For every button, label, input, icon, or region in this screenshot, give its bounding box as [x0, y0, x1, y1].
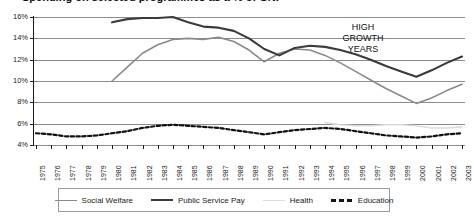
x-axis-label: 1988: [237, 165, 244, 181]
y-axis-tick: [30, 81, 34, 82]
x-axis-label: 1982: [146, 165, 153, 181]
legend-item-public-service-pay[interactable]: Public Service Pay: [151, 196, 245, 205]
x-axis-label: 1984: [176, 165, 183, 181]
x-axis-tick: [432, 145, 433, 149]
gridline: [33, 60, 465, 61]
legend-label: Social Welfare: [82, 196, 133, 205]
series-line-social-welfare: [112, 37, 462, 103]
x-axis-label: 2003: [465, 165, 472, 181]
y-axis-tick: [30, 145, 34, 146]
gridline: [33, 38, 465, 39]
x-axis-label: 1994: [328, 165, 335, 181]
y-axis-tick: [30, 38, 34, 39]
y-axis-tick: [30, 124, 34, 125]
x-axis-tick: [295, 145, 296, 149]
x-axis-tick: [386, 145, 387, 149]
x-axis-tick: [234, 145, 235, 149]
x-axis-tick: [416, 145, 417, 149]
x-axis-tick: [325, 145, 326, 149]
x-axis-tick: [36, 145, 37, 149]
x-axis-tick: [401, 145, 402, 149]
series-lines: [0, 0, 474, 217]
legend-swatch-icon: [55, 200, 77, 201]
series-line-education: [36, 125, 462, 138]
y-axis-label: 16%: [2, 12, 28, 21]
high-growth-years-annotation: HIGH GROWTH YEARS: [331, 22, 395, 55]
x-axis-tick: [66, 145, 67, 149]
chart-legend: Social WelfarePublic Service PayHealthEd…: [58, 188, 390, 212]
x-axis-label: 1986: [206, 165, 213, 181]
x-axis-label: 1993: [313, 165, 320, 181]
legend-label: Education: [358, 196, 394, 205]
annotation-line-2: GROWTH: [331, 33, 395, 44]
chart-title: Spending on selected programmes as a % o…: [22, 0, 283, 3]
x-axis-tick: [203, 145, 204, 149]
chart-figure: Spending on selected programmes as a % o…: [0, 0, 474, 217]
legend-item-social-welfare[interactable]: Social Welfare: [55, 196, 133, 205]
x-axis-label: 1977: [69, 165, 76, 181]
x-axis-tick: [371, 145, 372, 149]
x-axis-label: 1985: [191, 165, 198, 181]
y-axis-label: 8%: [2, 97, 28, 106]
legend-swatch-icon: [331, 199, 353, 202]
x-axis-label: 1978: [85, 165, 92, 181]
legend-item-education[interactable]: Education: [331, 196, 394, 205]
legend-label: Public Service Pay: [178, 196, 245, 205]
x-axis-tick: [462, 145, 463, 149]
y-axis-tick: [30, 17, 34, 18]
y-axis-label: 12%: [2, 55, 28, 64]
legend-swatch-icon: [263, 200, 285, 201]
x-axis-tick: [340, 145, 341, 149]
x-axis-tick: [82, 145, 83, 149]
x-axis-label: 1983: [161, 165, 168, 181]
x-axis-tick: [356, 145, 357, 149]
x-axis-label: 1996: [359, 165, 366, 181]
chart-title-clipped: Spending on selected programmes as a % o…: [0, 0, 474, 8]
x-axis-label: 2002: [450, 165, 457, 181]
x-axis-tick: [447, 145, 448, 149]
x-axis-tick: [264, 145, 265, 149]
x-axis-label: 1989: [252, 165, 259, 181]
x-axis-label: 1990: [267, 165, 274, 181]
legend-swatch-icon: [151, 199, 173, 201]
legend-label: Health: [290, 196, 313, 205]
x-axis-label: 1987: [222, 165, 229, 181]
x-axis-tick: [249, 145, 250, 149]
x-axis-label: 1979: [100, 165, 107, 181]
gridline: [33, 81, 465, 82]
x-axis-tick: [310, 145, 311, 149]
x-axis-tick: [143, 145, 144, 149]
x-axis-tick: [51, 145, 52, 149]
x-axis-label: 1998: [389, 165, 396, 181]
y-axis-tick: [30, 102, 34, 103]
x-axis-label: 1975: [39, 165, 46, 181]
series-line-public-service-pay: [112, 17, 462, 77]
x-axis-label: 1980: [115, 165, 122, 181]
annotation-line-1: HIGH: [331, 22, 395, 33]
x-axis-label: 1981: [130, 165, 137, 181]
x-axis-tick: [127, 145, 128, 149]
gridline: [33, 17, 465, 18]
x-axis-tick: [158, 145, 159, 149]
x-axis-tick: [188, 145, 189, 149]
x-axis-label: 1995: [343, 165, 350, 181]
x-axis-tick: [279, 145, 280, 149]
x-axis-label: 1999: [404, 165, 411, 181]
y-axis-label: 6%: [2, 119, 28, 128]
gridline: [33, 102, 465, 103]
x-axis-label: 1997: [374, 165, 381, 181]
y-axis-tick: [30, 60, 34, 61]
x-axis-label: 1991: [282, 165, 289, 181]
y-axis-label: 4%: [2, 140, 28, 149]
annotation-line-3: YEARS: [331, 44, 395, 55]
x-axis-tick: [219, 145, 220, 149]
y-axis-label: 14%: [2, 33, 28, 42]
legend-item-health[interactable]: Health: [263, 196, 313, 205]
x-axis-tick: [112, 145, 113, 149]
x-axis-tick: [173, 145, 174, 149]
x-axis-tick: [97, 145, 98, 149]
y-axis-label: 10%: [2, 76, 28, 85]
gridline: [33, 124, 465, 125]
x-axis-label: 2001: [435, 165, 442, 181]
x-axis-label: 1992: [298, 165, 305, 181]
